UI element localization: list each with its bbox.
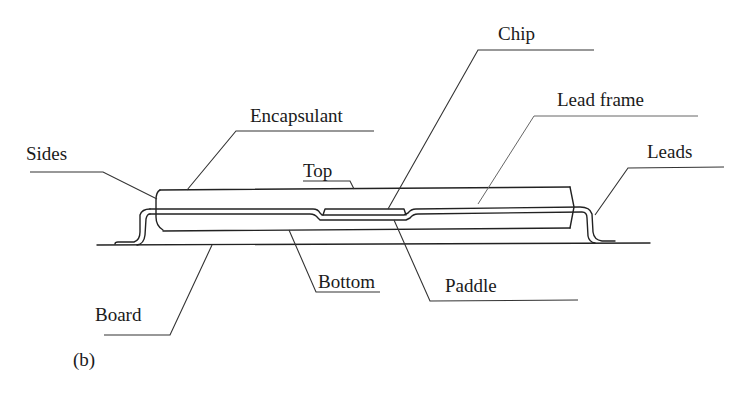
label-bottom: Bottom (318, 271, 375, 292)
label-chip: Chip (498, 23, 535, 44)
chip (323, 209, 406, 215)
label-leads: Leads (647, 141, 692, 162)
panel-label: (b) (73, 349, 95, 371)
chip-leader (388, 50, 594, 209)
label-top: Top (303, 160, 332, 181)
top-leader (303, 181, 354, 189)
lead-frame (115, 207, 615, 245)
board (97, 243, 650, 245)
labels: Sides Encapsulant Top Chip Lead frame Le… (26, 23, 692, 371)
label-sides: Sides (26, 143, 67, 164)
sides-leader (30, 172, 157, 199)
label-paddle: Paddle (445, 275, 497, 296)
label-encapsulant: Encapsulant (250, 105, 344, 126)
label-board: Board (95, 304, 142, 325)
leads-leader (595, 167, 724, 215)
package-cross-section-diagram: Sides Encapsulant Top Chip Lead frame Le… (0, 0, 748, 394)
label-lead-frame: Lead frame (557, 89, 644, 110)
